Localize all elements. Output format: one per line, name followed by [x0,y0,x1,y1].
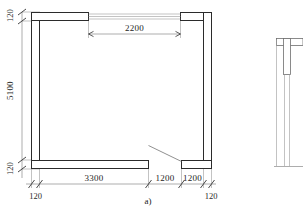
wall-assembly [32,13,212,169]
dim-label-seg-1200-a: 1200 [156,173,175,183]
dim-label-seg-1200-b: 1200 [183,173,202,183]
figure-b-wall-vertical-upper [284,39,291,75]
dim-label-wall-thk-top: 120 [5,9,15,22]
wall-top-left-stub [32,13,89,21]
dim-label-wall-thk-right: 120 [205,191,218,201]
partial-figure-b [274,39,303,167]
dim-label-wall-thk-left: 120 [29,191,42,201]
dim-label-wall-thk-bottom: 120 [5,162,15,175]
plan-canvas: 120 5100 120 [0,0,303,209]
wall-bottom-right [182,161,212,169]
wall-left [32,13,40,169]
window-opening-top [89,14,181,19]
door-swing-line [149,146,182,162]
floor-plan-drawing: 120 5100 120 [0,0,303,209]
dim-label-interior-height: 5100 [5,81,15,100]
dim-label-seg-3300: 3300 [85,173,104,183]
bottom-dimension-chain: 120 3300 1200 1200 120 [26,169,217,201]
wall-right [204,13,212,169]
top-dimension-2200: 2200 [89,21,181,38]
dim-label-opening-top: 2200 [125,23,144,33]
figure-label: a) [145,196,152,206]
wall-bottom-left [32,161,149,169]
